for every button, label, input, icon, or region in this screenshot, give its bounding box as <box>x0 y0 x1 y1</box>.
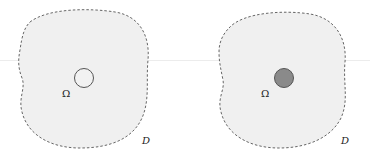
domain-label-right: D <box>341 136 349 146</box>
domain-label-left: D <box>142 136 150 146</box>
domain-d-right <box>185 0 370 155</box>
panel-right: Ω D <box>185 0 370 155</box>
omega-label-right: Ω <box>261 89 269 99</box>
inclusion-omega-empty-left <box>75 69 94 88</box>
panel-left: Ω D <box>0 0 185 155</box>
inclusion-omega-filled-right <box>275 69 294 88</box>
omega-label-left: Ω <box>62 89 70 99</box>
domain-d-left <box>0 0 185 155</box>
